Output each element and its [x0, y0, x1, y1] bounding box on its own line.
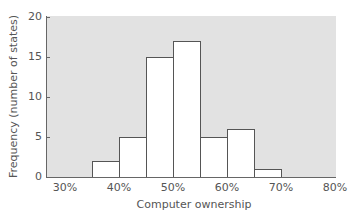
x-tick-label: 50% [153, 182, 193, 194]
y-tick-label: 20 [22, 11, 42, 23]
histogram-bar [200, 137, 228, 177]
y-tick-label: 10 [22, 91, 42, 103]
y-tick-label: 5 [22, 131, 42, 143]
histogram-bar [227, 129, 255, 177]
histogram-bar [173, 41, 201, 177]
x-tick-label: 80% [315, 182, 353, 194]
y-tick-label: 15 [22, 51, 42, 63]
y-axis-title: Frequency (number of states) [7, 12, 20, 182]
x-axis-line [46, 177, 336, 178]
y-tick-mark [46, 57, 50, 58]
y-tick-label: 0 [22, 171, 42, 183]
x-tick-label: 70% [261, 182, 301, 194]
x-tick-label: 40% [99, 182, 139, 194]
histogram-bar [119, 137, 147, 177]
x-tick-label: 30% [45, 182, 85, 194]
histogram-bar [146, 57, 174, 177]
histogram-bar [254, 169, 282, 177]
histogram-bar [92, 161, 120, 177]
x-axis-title: Computer ownership [0, 198, 353, 211]
y-tick-mark [46, 97, 50, 98]
y-tick-mark [46, 137, 50, 138]
y-tick-mark [46, 177, 50, 178]
x-tick-label: 60% [207, 182, 247, 194]
y-tick-mark [46, 17, 50, 18]
